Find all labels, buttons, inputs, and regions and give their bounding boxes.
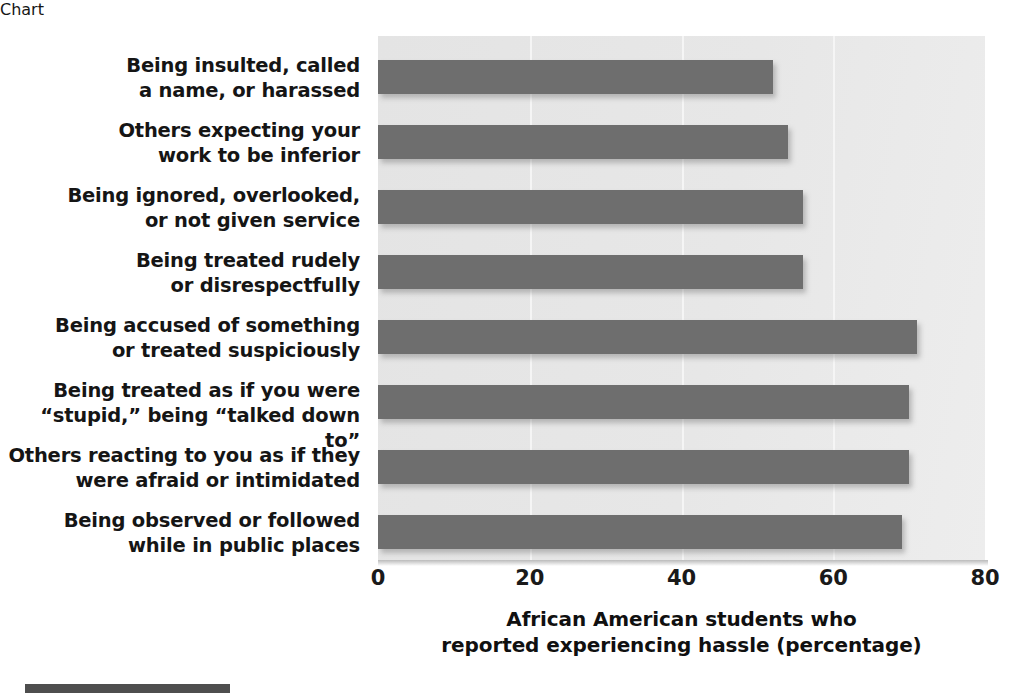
category-label-7: Being observed or followed while in publ…	[0, 508, 360, 558]
category-label-6: Others reacting to you as if they were a…	[0, 443, 360, 493]
category-label-4-line-1: or treated suspiciously	[0, 338, 360, 363]
category-label-5: Being treated as if you were “stupid,” b…	[0, 378, 360, 453]
category-axis-labels: Being insulted, called a name, or harass…	[0, 36, 370, 560]
category-label-4: Being accused of something or treated su…	[0, 313, 360, 363]
category-label-2: Being ignored, overlooked, or not given …	[0, 183, 360, 233]
category-label-5-line-0: Being treated as if you were	[0, 378, 360, 403]
x-axis-tick-20: 20	[515, 566, 544, 590]
x-axis-tick-40: 40	[667, 566, 696, 590]
x-axis-title-line-0: African American students who	[378, 606, 985, 632]
plot-area	[378, 36, 985, 560]
category-label-3-line-1: or disrespectfully	[0, 273, 360, 298]
x-axis-tick-60: 60	[819, 566, 848, 590]
category-label-7-line-0: Being observed or followed	[0, 508, 360, 533]
category-label-0-line-0: Being insulted, called	[0, 53, 360, 78]
category-label-6-line-1: were afraid or intimidated	[0, 468, 360, 493]
category-label-0-line-1: a name, or harassed	[0, 78, 360, 103]
x-axis-title: African American students who reported e…	[378, 606, 985, 658]
x-axis-tick-80: 80	[970, 566, 999, 590]
category-label-1-line-0: Others expecting your	[0, 118, 360, 143]
bar-being-accused-of-something-or-treated-suspiciously	[378, 320, 917, 354]
category-label-1: Others expecting your work to be inferio…	[0, 118, 360, 168]
x-axis-tick-labels: 0 20 40 60 80	[378, 566, 985, 596]
bar-being-treated-rudely-or-disrespectfully	[378, 255, 803, 289]
category-label-6-line-0: Others reacting to you as if they	[0, 443, 360, 468]
bar-being-observed-or-followed-while-in-public-places	[378, 515, 902, 549]
category-label-3-line-0: Being treated rudely	[0, 248, 360, 273]
bar-being-treated-as-if-you-were-stupid	[378, 385, 909, 419]
category-label-2-line-0: Being ignored, overlooked,	[0, 183, 360, 208]
category-label-3: Being treated rudely or disrespectfully	[0, 248, 360, 298]
category-label-0: Being insulted, called a name, or harass…	[0, 53, 360, 103]
x-axis-tick-0: 0	[371, 566, 386, 590]
bar-others-reacting-to-you-as-if-afraid-or-intimidated	[378, 450, 909, 484]
bar-others-expecting-your-work-to-be-inferior	[378, 125, 788, 159]
category-label-7-line-1: while in public places	[0, 533, 360, 558]
bar-being-insulted-called-a-name-or-harassed	[378, 60, 773, 94]
category-label-1-line-1: work to be inferior	[0, 143, 360, 168]
x-axis-title-line-1: reported experiencing hassle (percentage…	[378, 632, 985, 658]
category-label-2-line-1: or not given service	[0, 208, 360, 233]
bar-being-ignored-overlooked-or-not-given-service	[378, 190, 803, 224]
footer-rule	[25, 684, 230, 693]
category-label-4-line-0: Being accused of something	[0, 313, 360, 338]
